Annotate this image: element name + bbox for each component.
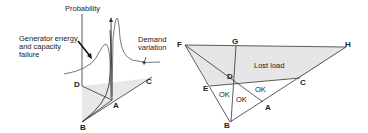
arrow-head-icon — [142, 61, 146, 65]
ok-label-center: OK — [236, 95, 247, 104]
ok-label-right: OK — [255, 85, 266, 94]
ok-label-left: OK — [219, 90, 230, 99]
demand-label-2: variation — [138, 43, 166, 52]
point-c-label: C — [300, 78, 306, 87]
point-f-label: F — [177, 40, 182, 49]
point-b-label: B — [224, 121, 230, 130]
point-b-label: B — [80, 123, 86, 132]
point-d-label: D — [227, 72, 233, 81]
arrow-up-icon — [109, 17, 113, 22]
point-e-label: E — [203, 84, 209, 93]
point-g-label: G — [232, 37, 238, 46]
left-probability-diagram: Probability Generator energy and capacit… — [19, 4, 166, 132]
diagram-canvas: Probability Generator energy and capacit… — [0, 0, 368, 133]
lost-load-label: Lost load — [254, 61, 284, 70]
generator-label-3: failure — [19, 50, 39, 59]
generator-arrow — [78, 41, 90, 56]
probability-label: Probability — [65, 4, 100, 13]
right-region-diagram: F G H D E C A B Lost load OK OK OK — [177, 37, 351, 130]
point-c-label: C — [146, 77, 152, 86]
point-d-label: D — [74, 80, 80, 89]
point-h-label: H — [345, 40, 351, 49]
point-a-label: A — [113, 101, 119, 110]
point-a-label: A — [265, 103, 271, 112]
